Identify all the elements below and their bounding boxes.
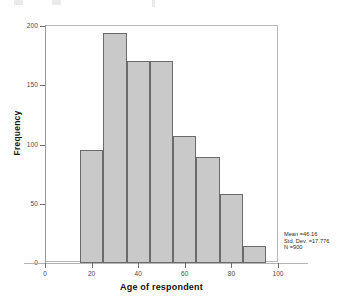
- histogram-bars: [45, 25, 278, 263]
- scan-artifact: [14, 0, 23, 5]
- bar-25-35: [103, 33, 126, 263]
- x-tick-label-0: 0: [30, 270, 60, 278]
- x-tick-label-80: 80: [216, 270, 246, 278]
- x-axis-line: [24, 263, 308, 264]
- x-tick-60: [185, 263, 186, 268]
- bar-65-75: [196, 157, 219, 263]
- bar-85-95: [243, 246, 266, 263]
- scan-artifact: [152, 0, 155, 7]
- bar-75-85: [220, 194, 243, 263]
- histogram-figure: 200 150 100 50 0 Frequency 0 20 40 60 80…: [0, 0, 345, 302]
- stat-n: N =900: [284, 244, 344, 251]
- y-tick-label-200: 200: [0, 22, 38, 29]
- x-tick-20: [92, 263, 93, 268]
- x-tick-40: [138, 263, 139, 268]
- stat-std-dev: Std. Dev. =17.776: [284, 238, 344, 245]
- scan-artifact: [52, 0, 61, 5]
- bar-15-25: [80, 150, 103, 263]
- x-tick-80: [231, 263, 232, 268]
- x-axis-title: Age of respondent: [45, 282, 278, 292]
- x-tick-label-100: 100: [263, 270, 293, 278]
- x-tick-label-20: 20: [77, 270, 107, 278]
- y-axis-title: Frequency: [12, 83, 22, 183]
- x-tick-0: [45, 263, 46, 268]
- x-tick-label-40: 40: [123, 270, 153, 278]
- x-tick-100: [278, 263, 279, 268]
- y-tick-label-50: 50: [0, 200, 38, 207]
- stat-mean: Mean =46.16: [284, 231, 344, 238]
- x-tick-label-60: 60: [170, 270, 200, 278]
- bar-45-55: [150, 61, 173, 263]
- bar-55-65: [173, 136, 196, 263]
- bar-35-45: [127, 61, 150, 263]
- statistics-annotation: Mean =46.16 Std. Dev. =17.776 N =900: [284, 231, 344, 251]
